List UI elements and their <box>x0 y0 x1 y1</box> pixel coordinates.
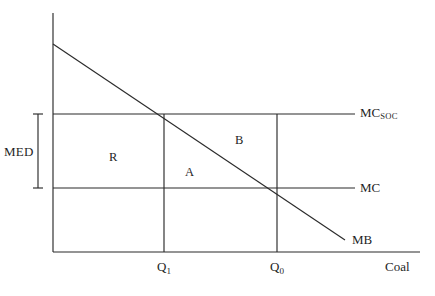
med-bracket-label: MED <box>4 145 34 158</box>
region-r-label: R <box>109 151 117 164</box>
q1-label-subscript: 1 <box>166 266 171 276</box>
q0-label-subscript: 0 <box>279 266 284 276</box>
mc-soc-label-subscript: SOC <box>380 111 398 121</box>
diagram-canvas: MCSOC MC MB Q1 Q0 Coal MED R A B <box>0 0 435 296</box>
mb-label-main: MB <box>352 232 372 247</box>
q1-label-main: Q <box>157 259 166 274</box>
med-bracket <box>33 114 43 188</box>
region-b-label: B <box>235 134 243 147</box>
mc-curve-label: MC <box>360 181 380 194</box>
q0-axis-label: Q0 <box>270 260 284 276</box>
mc-soc-curve-label: MCSOC <box>360 106 398 121</box>
q0-label-main: Q <box>270 259 279 274</box>
mc-label-main: MC <box>360 180 380 195</box>
mb-curve-label: MB <box>352 233 372 246</box>
mb-curve <box>53 44 345 240</box>
x-axis-label: Coal <box>385 260 410 273</box>
diagram-vector-layer <box>0 0 435 296</box>
mc-soc-label-main: MC <box>360 105 380 120</box>
region-a-label: A <box>185 166 194 179</box>
q1-axis-label: Q1 <box>157 260 171 276</box>
